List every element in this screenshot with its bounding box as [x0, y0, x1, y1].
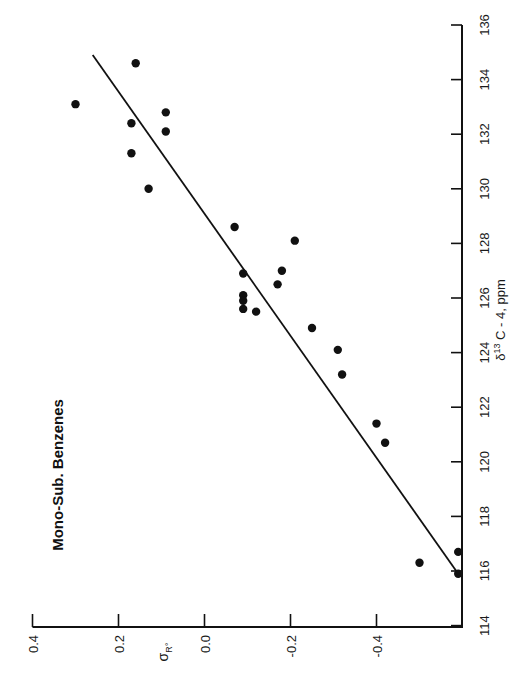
data-point [454, 548, 462, 556]
data-point [127, 149, 135, 157]
data-points [71, 59, 462, 578]
data-point [239, 297, 247, 305]
sigma-tick-label: 0.2 [112, 635, 127, 653]
ppm-tick-label: 122 [477, 396, 492, 418]
data-point [252, 307, 260, 315]
data-point [291, 236, 299, 244]
data-point [381, 438, 389, 446]
ppm-tick-label: 130 [477, 178, 492, 200]
data-point [338, 370, 346, 378]
data-point [162, 127, 170, 135]
ppm-axis-label-prefix: δ [493, 354, 508, 361]
ppm-axis-ticks: 114116118120122124126128130132134136 [451, 14, 492, 636]
data-point [162, 108, 170, 116]
scatter-chart: 0.40.20.0-0.2-0.4 1141161181201221241261… [0, 0, 522, 700]
ppm-tick-label: 114 [477, 615, 492, 636]
data-point [132, 59, 140, 67]
sigma-tick-label: -0.2 [284, 635, 299, 657]
ppm-tick-label: 134 [477, 69, 492, 91]
sigma-tick-label: -0.4 [370, 635, 385, 657]
ppm-axis-label-rest: C - 4, ppm [493, 279, 508, 343]
data-point [334, 346, 342, 354]
sigma-tick-label: 0.0 [198, 635, 213, 653]
data-point [415, 559, 423, 567]
data-point [454, 570, 462, 578]
ppm-tick-label: 132 [477, 123, 492, 145]
data-point [239, 305, 247, 313]
sigma-tick-label: 0.4 [26, 635, 41, 653]
data-point [144, 185, 152, 193]
sigma-axis-label-sub: R° [164, 642, 174, 652]
axis-lines [33, 25, 463, 627]
ppm-tick-label: 128 [477, 233, 492, 255]
ppm-tick-label: 116 [477, 561, 492, 582]
ppm-tick-label: 136 [477, 14, 492, 36]
data-point [127, 119, 135, 127]
ppm-tick-label: 126 [477, 287, 492, 309]
data-point [71, 100, 79, 108]
ppm-tick-label: 124 [477, 342, 492, 364]
ppm-axis-label-sup: 13 [492, 344, 502, 354]
ppm-tick-label: 118 [477, 506, 492, 527]
ppm-tick-label: 120 [477, 451, 492, 473]
data-point [372, 419, 380, 427]
data-point [278, 267, 286, 275]
data-point [239, 269, 247, 277]
sigma-axis-label-main: σ [155, 652, 171, 661]
chart-title: Mono-Sub. Benzenes [49, 399, 66, 551]
regression-line [93, 55, 459, 574]
sigma-axis-ticks: 0.40.20.0-0.2-0.4 [26, 614, 385, 657]
data-point [230, 223, 238, 231]
data-point [308, 324, 316, 332]
ppm-axis-label: δ13 C - 4, ppm [492, 279, 508, 361]
data-point [273, 280, 281, 288]
sigma-axis-label: σR° [155, 642, 174, 661]
